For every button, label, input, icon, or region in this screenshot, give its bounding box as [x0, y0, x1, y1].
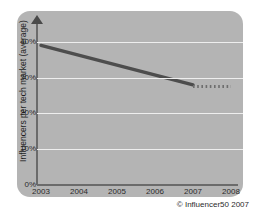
x-tick-label: 2007 [178, 187, 208, 196]
chart-figure: 0%10%20%30%40% 200320042005200620072008 … [0, 0, 261, 223]
x-tick-label: 2008 [216, 187, 246, 196]
x-tick-label: 2003 [26, 187, 56, 196]
series-layer [37, 24, 243, 185]
gridline [37, 42, 243, 43]
gridline [37, 149, 243, 150]
x-tick-label: 2005 [102, 187, 132, 196]
gridline [37, 78, 243, 79]
plot-area [37, 24, 243, 185]
x-tick-label: 2006 [140, 187, 170, 196]
series-line-actual [41, 45, 193, 84]
y-axis-title: Influencers per tech market (average) [18, 16, 28, 166]
copyright-credit: © Influencer50 2007 [177, 200, 249, 209]
x-tick-label: 2004 [64, 187, 94, 196]
gridline [37, 113, 243, 114]
